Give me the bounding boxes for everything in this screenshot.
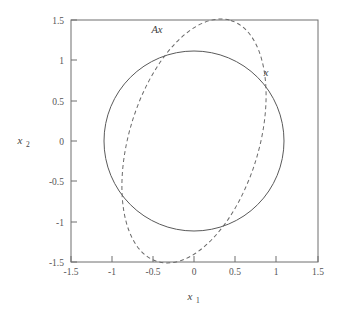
annotation-label-ax: Ax	[150, 24, 162, 35]
x-tick-labels: -1.5 -1 -0.5 0 0.5 1 1.5	[63, 267, 324, 277]
y-axis-title-base: x	[17, 134, 23, 146]
y-tick-label: -1.5	[49, 258, 64, 268]
plot-frame	[71, 20, 318, 262]
x-tick-label: 1	[274, 267, 279, 277]
y-tick-label: 0	[59, 137, 64, 147]
x-tick-label: -1	[108, 267, 116, 277]
y-tick-label: 1.5	[52, 16, 64, 26]
figure-container: 1.5 1 0.5 0 -0.5 -1 -1.5 -1.5 -1 -0.5 0 …	[0, 0, 341, 313]
y-tick-label: 1	[59, 56, 64, 66]
series-curve-x	[104, 51, 284, 231]
x-tick-label: 0.5	[229, 267, 241, 277]
x-axis-title: x 1	[187, 290, 200, 305]
annotation-label-x: x	[263, 67, 269, 78]
x-axis-title-subscript: 1	[196, 296, 200, 305]
x-axis-title-base: x	[187, 290, 193, 302]
y-axis-title-subscript: 2	[26, 140, 30, 149]
x-tick-label: -1.5	[63, 267, 78, 277]
x-axis-ticks	[71, 256, 318, 262]
y-tick-labels: 1.5 1 0.5 0 -0.5 -1 -1.5	[49, 16, 64, 268]
x-tick-label: -0.5	[145, 267, 160, 277]
series-curve-ax	[95, 2, 293, 281]
y-tick-label: -1	[56, 218, 64, 228]
y-tick-label: 0.5	[52, 97, 64, 107]
y-axis-ticks	[71, 20, 77, 262]
x-tick-label: 0	[192, 267, 197, 277]
y-axis-title: x 2	[17, 134, 30, 149]
y-tick-label: -0.5	[49, 177, 64, 187]
x-tick-label: 1.5	[312, 267, 324, 277]
plot-area: 1.5 1 0.5 0 -0.5 -1 -1.5 -1.5 -1 -0.5 0 …	[0, 0, 341, 313]
